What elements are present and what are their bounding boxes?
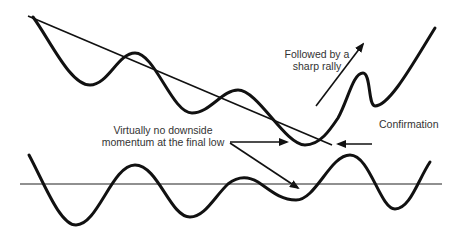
- confirmation-label: Confirmation: [379, 118, 439, 130]
- oscillator-curve: [29, 155, 430, 225]
- rally-label-line2: sharp rally: [277, 60, 357, 72]
- divergence-diagram: [0, 0, 460, 234]
- momentum-label-line1: Virtually no downside: [98, 124, 228, 136]
- rally-label-line1: Followed by a: [277, 48, 357, 60]
- rally-label: Followed by a sharp rally: [277, 48, 357, 72]
- final-low-oscillator-arrow: [230, 143, 298, 188]
- momentum-label-line2: momentum at the final low: [98, 136, 228, 148]
- price-curve: [33, 17, 435, 145]
- momentum-label: Virtually no downside momentum at the fi…: [98, 124, 228, 148]
